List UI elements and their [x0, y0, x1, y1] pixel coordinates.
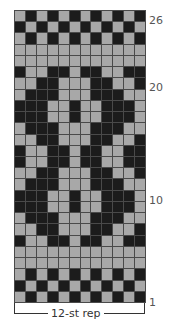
chart-cell [91, 191, 101, 201]
chart-cell [102, 101, 112, 111]
chart-cell [70, 90, 80, 100]
chart-cell [15, 123, 25, 133]
chart-cell [70, 191, 80, 201]
chart-cell [135, 269, 145, 279]
chart-cell [70, 179, 80, 189]
chart-cell [91, 157, 101, 167]
chart-cell [70, 45, 80, 55]
chart-cell [81, 213, 91, 223]
chart-cell [37, 269, 47, 279]
chart-cell [15, 269, 25, 279]
chart-cell [48, 67, 58, 77]
chart-cell [15, 224, 25, 234]
chart-cell [91, 202, 101, 212]
chart-cell [124, 56, 134, 66]
chart-cell [59, 202, 69, 212]
chart-cell [91, 33, 101, 43]
chart-cell [102, 33, 112, 43]
chart-cell [102, 146, 112, 156]
chart-cell [135, 90, 145, 100]
chart-cell [59, 67, 69, 77]
chart-cell [59, 33, 69, 43]
chart-cell [48, 56, 58, 66]
chart-cell [26, 22, 36, 32]
chart-cell [124, 101, 134, 111]
chart-cell [135, 247, 145, 257]
chart-cell [15, 157, 25, 167]
chart-cell [81, 191, 91, 201]
chart-cell [113, 269, 123, 279]
chart-cell [59, 236, 69, 246]
chart-cell [70, 11, 80, 21]
chart-cell [135, 213, 145, 223]
chart-cell [48, 236, 58, 246]
chart-cell [26, 224, 36, 234]
chart-cell [81, 146, 91, 156]
chart-cell [26, 236, 36, 246]
chart-cell [59, 213, 69, 223]
chart-cell [81, 112, 91, 122]
chart-cell [91, 247, 101, 257]
chart-cell [124, 112, 134, 122]
chart-cell [124, 67, 134, 77]
chart-cell [70, 269, 80, 279]
chart-cell [37, 224, 47, 234]
chart-cell [70, 213, 80, 223]
chart-cell [48, 191, 58, 201]
chart-cell [70, 112, 80, 122]
chart-cell [59, 179, 69, 189]
chart-cell [135, 56, 145, 66]
chart-cell [26, 157, 36, 167]
chart-cell [37, 258, 47, 268]
chart-cell [37, 202, 47, 212]
chart-cell [48, 101, 58, 111]
chart-cell [91, 224, 101, 234]
chart-cell [124, 90, 134, 100]
chart-cell [48, 292, 58, 302]
chart-cell [15, 202, 25, 212]
row-label-26: 26 [149, 15, 163, 26]
knitting-chart-grid [14, 10, 146, 303]
chart-cell [91, 292, 101, 302]
chart-cell [135, 123, 145, 133]
chart-cell [135, 22, 145, 32]
chart-cell [37, 168, 47, 178]
chart-cell [135, 224, 145, 234]
chart-cell [81, 33, 91, 43]
chart-cell [102, 135, 112, 145]
chart-cell [135, 135, 145, 145]
chart-cell [135, 67, 145, 77]
chart-cell [113, 146, 123, 156]
chart-cell [135, 292, 145, 302]
chart-cell [102, 247, 112, 257]
chart-cell [26, 33, 36, 43]
chart-cell [135, 112, 145, 122]
chart-cell [48, 168, 58, 178]
chart-cell [81, 67, 91, 77]
chart-cell [102, 90, 112, 100]
chart-cell [102, 56, 112, 66]
chart-cell [26, 179, 36, 189]
chart-cell [26, 281, 36, 291]
chart-cell [135, 78, 145, 88]
chart-cell [15, 236, 25, 246]
chart-cell [70, 224, 80, 234]
chart-cell [91, 146, 101, 156]
chart-cell [113, 78, 123, 88]
chart-cell [124, 11, 134, 21]
chart-cell [91, 179, 101, 189]
chart-cell [59, 269, 69, 279]
chart-cell [37, 247, 47, 257]
chart-cell [37, 90, 47, 100]
chart-cell [37, 236, 47, 246]
chart-cell [37, 45, 47, 55]
chart-cell [37, 135, 47, 145]
row-label-10: 10 [149, 195, 163, 206]
chart-cell [124, 292, 134, 302]
chart-cell [102, 168, 112, 178]
chart-cell [48, 157, 58, 167]
chart-cell [113, 168, 123, 178]
chart-cell [81, 22, 91, 32]
chart-cell [124, 22, 134, 32]
chart-cell [91, 112, 101, 122]
